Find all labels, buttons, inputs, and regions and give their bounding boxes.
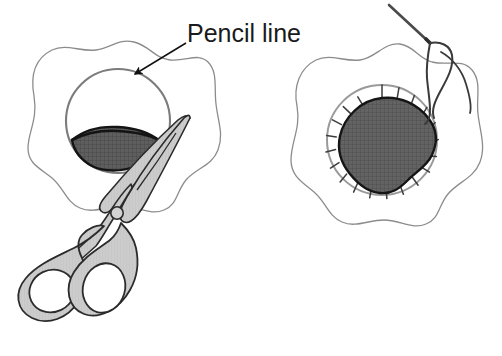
needle xyxy=(389,5,430,43)
left-panel-cutting-step xyxy=(18,41,220,321)
right-panel-stitching-step xyxy=(291,5,483,226)
pencil-line-label: Pencil line xyxy=(187,19,301,47)
scissors-pivot-screw xyxy=(111,207,123,219)
illustration-figure: Pencil line xyxy=(0,0,502,356)
diagram-canvas: Pencil line xyxy=(0,0,502,356)
